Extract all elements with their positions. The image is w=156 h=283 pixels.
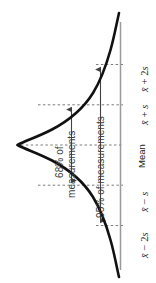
band-95-label: 95% of measurements [96,116,106,218]
band-68-label-line2: measurements [67,131,77,198]
normal-distribution-figure: x̄ + 2s x̄ + s Mean x̄ x̄ − s x̄ − 2s 68… [0,0,156,283]
tick-label-minus-1s: x̄ − s [140,192,151,212]
tick-label-minus-2s: x̄ − 2s [140,232,151,258]
tick-label-plus-1s: x̄ + s [140,105,151,125]
band-68-label-line1: 68% of [55,146,65,178]
distribution-plot-svg [0,0,156,283]
tick-label-plus-2s: x̄ + 2s [140,66,151,92]
tick-label-mean: x̄ [150,147,156,152]
mean-caption: Mean [137,144,147,168]
